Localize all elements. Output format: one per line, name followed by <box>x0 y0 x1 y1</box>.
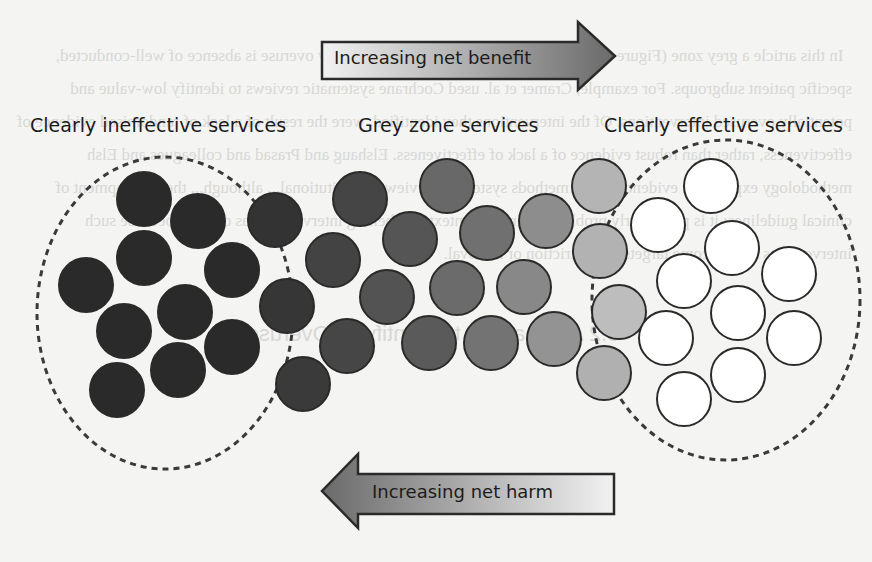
service-circle <box>90 363 144 417</box>
service-circle <box>171 194 225 248</box>
service-circle <box>151 343 205 397</box>
net-harm-label: Increasing net harm <box>372 481 553 502</box>
service-circle <box>657 372 711 426</box>
service-circle <box>639 311 693 365</box>
service-circle <box>572 159 626 213</box>
service-circle <box>360 270 414 324</box>
service-circle <box>260 279 314 333</box>
service-circle <box>205 243 259 297</box>
service-circle <box>205 320 259 374</box>
service-circle <box>519 194 573 248</box>
group-label-effective: Clearly effective services <box>604 114 843 136</box>
service-circle <box>402 316 456 370</box>
service-circle <box>711 286 765 340</box>
service-circle <box>767 311 821 365</box>
service-circle <box>527 312 581 366</box>
group-label-grey: Grey zone services <box>358 114 538 136</box>
service-circle <box>158 285 212 339</box>
service-circle <box>762 247 816 301</box>
service-circle <box>117 231 171 285</box>
service-circle <box>464 316 518 370</box>
service-circle <box>430 261 484 315</box>
service-circle <box>306 233 360 287</box>
service-circle <box>460 206 514 260</box>
service-circles <box>59 159 821 426</box>
service-circle <box>420 159 474 213</box>
service-circle <box>573 224 627 278</box>
service-circle <box>97 304 151 358</box>
service-circle <box>592 285 646 339</box>
service-circle <box>577 346 631 400</box>
service-circle <box>631 198 685 252</box>
service-circle <box>657 254 711 308</box>
service-circle <box>705 221 759 275</box>
service-circle <box>320 319 374 373</box>
service-circle <box>117 172 171 226</box>
group-label-ineffective: Clearly ineffective services <box>30 114 286 136</box>
service-circle <box>333 172 387 226</box>
service-circle <box>497 260 551 314</box>
service-circle <box>248 193 302 247</box>
service-circle <box>276 357 330 411</box>
service-circle <box>59 258 113 312</box>
service-circle <box>684 159 738 213</box>
service-circle <box>711 348 765 402</box>
net-benefit-label: Increasing net benefit <box>334 47 531 68</box>
overuse-diagram <box>0 0 872 562</box>
service-circle <box>383 212 437 266</box>
